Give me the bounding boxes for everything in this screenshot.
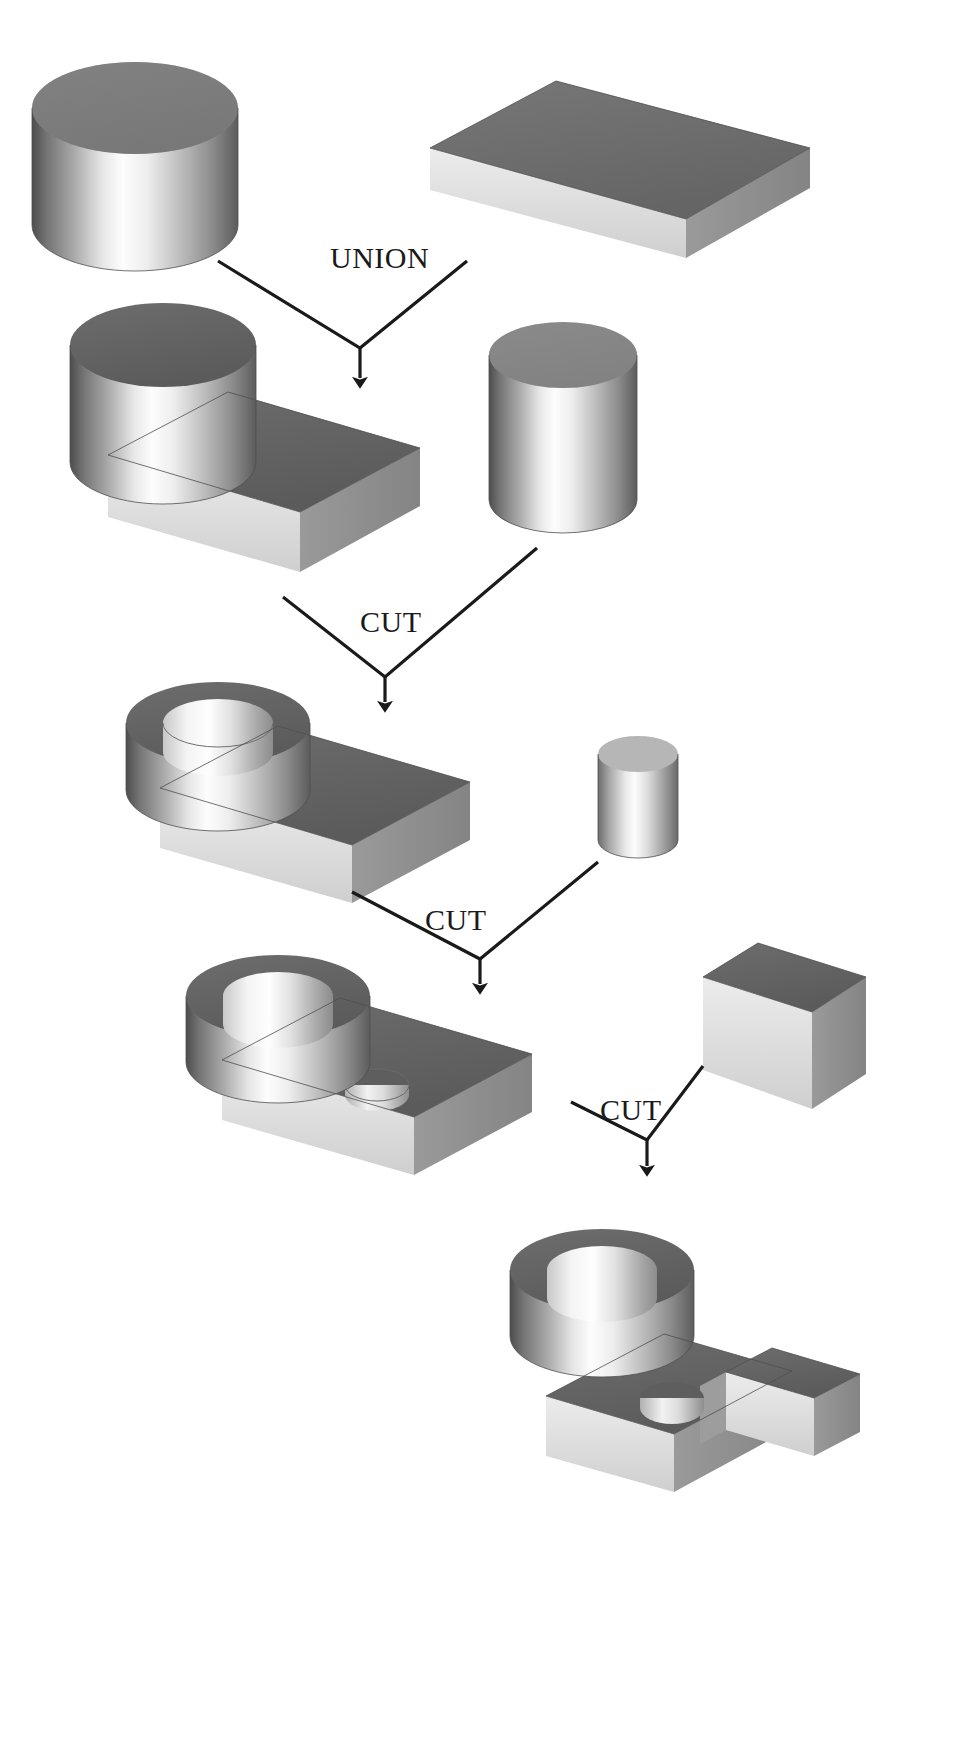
op-label-union-1: UNION: [330, 241, 429, 274]
shape-cut-result-1: [126, 682, 470, 903]
csg-diagram-canvas: UNION CUT: [0, 0, 978, 1746]
shape-box-tool-1: [703, 943, 866, 1109]
op-label-cut-3: CUT: [600, 1093, 662, 1126]
connector-cut-3: CUT: [571, 1066, 703, 1166]
shape-cut-result-2: [186, 955, 532, 1175]
csg-diagram-page: UNION CUT: [0, 0, 978, 1746]
connector-cut-1: CUT: [283, 548, 537, 702]
shape-cylinder-tool-2: [598, 736, 678, 858]
shape-cylinder-large-1: [32, 62, 238, 271]
shape-box-plate-1: [430, 81, 810, 258]
op-label-cut-1: CUT: [360, 605, 422, 638]
shape-cut-result-3: [510, 1229, 860, 1492]
shape-cylinder-tool-1: [489, 322, 637, 533]
op-label-cut-2: CUT: [425, 903, 487, 936]
